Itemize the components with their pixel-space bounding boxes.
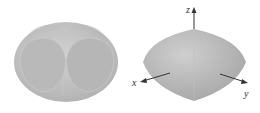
- z-axis-label: z: [186, 5, 190, 15]
- x-axis-label: x: [132, 78, 136, 88]
- y-axis-label: y: [244, 89, 248, 99]
- intersecting-cylinders-figure: [14, 22, 118, 102]
- intersection-solid-figure: [140, 7, 248, 101]
- z-arrowhead: [192, 7, 197, 13]
- y-arrowhead: [241, 79, 248, 84]
- diagram-canvas: [0, 0, 260, 113]
- x-arrowhead: [140, 78, 147, 83]
